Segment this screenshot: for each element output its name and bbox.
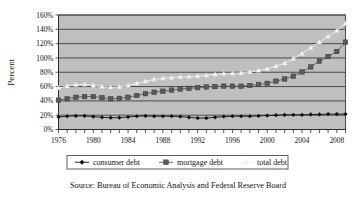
data-point-marker: [56, 98, 61, 103]
y-tick-label: 140%: [36, 25, 53, 34]
x-tick-label: 1984: [121, 136, 136, 145]
y-tick-label: 20%: [40, 111, 54, 120]
x-tick-label: 1976: [51, 136, 66, 145]
data-point-marker: [161, 89, 166, 94]
legend-swatch-marker: [164, 160, 169, 165]
data-point-marker: [91, 94, 96, 99]
data-point-marker: [230, 84, 235, 89]
x-tick-label: 1980: [86, 136, 101, 145]
data-point-marker: [204, 85, 209, 90]
chart-figure: 0%20%40%60%80%100%120%140%160%Percent197…: [0, 0, 357, 197]
x-tick-label: 1992: [190, 136, 205, 145]
x-tick-label: 1988: [155, 136, 170, 145]
x-tick-label: 1996: [225, 136, 240, 145]
legend-label: mortgage debt: [177, 158, 224, 167]
data-point-marker: [152, 90, 157, 95]
data-point-marker: [213, 84, 218, 89]
data-point-marker: [74, 95, 79, 100]
x-axis: 197619801984198819921996200020042008: [51, 130, 345, 146]
data-point-marker: [308, 65, 313, 70]
data-point-marker: [239, 84, 244, 89]
data-point-marker: [265, 81, 270, 86]
data-point-marker: [343, 40, 348, 45]
data-point-marker: [178, 87, 183, 92]
data-point-marker: [195, 85, 200, 90]
y-tick-label: 100%: [36, 54, 53, 63]
y-axis-title: Percent: [6, 58, 16, 85]
data-point-marker: [291, 74, 296, 79]
data-point-marker: [300, 70, 305, 75]
x-tick-label: 2000: [260, 136, 275, 145]
data-point-marker: [335, 49, 340, 54]
legend-label: total debt: [257, 158, 288, 167]
data-point-marker: [108, 96, 113, 101]
data-point-marker: [274, 79, 279, 84]
data-point-marker: [248, 83, 253, 88]
y-tick-label: 120%: [36, 39, 53, 48]
data-point-marker: [143, 91, 148, 96]
x-tick-label: 2008: [329, 136, 344, 145]
y-tick-label: 0%: [44, 125, 54, 134]
data-point-marker: [187, 86, 192, 91]
data-point-marker: [65, 96, 70, 101]
data-point-marker: [256, 82, 261, 87]
data-point-marker: [100, 95, 105, 100]
data-point-marker: [117, 96, 122, 101]
data-point-marker: [282, 77, 287, 82]
data-point-marker: [82, 94, 87, 99]
data-point-marker: [326, 54, 331, 59]
data-point-marker: [126, 95, 131, 100]
data-point-marker: [317, 59, 322, 64]
legend-label: consumer debt: [93, 158, 141, 167]
x-tick-label: 2004: [295, 136, 310, 145]
debt-to-income-line-chart: 0%20%40%60%80%100%120%140%160%Percent197…: [0, 0, 357, 197]
y-tick-label: 40%: [40, 96, 54, 105]
data-point-marker: [169, 88, 174, 93]
y-tick-label: 160%: [36, 11, 53, 20]
y-axis: 0%20%40%60%80%100%120%140%160%: [36, 11, 58, 135]
data-point-marker: [134, 93, 139, 98]
y-tick-label: 60%: [40, 82, 54, 91]
y-tick-label: 80%: [40, 68, 54, 77]
data-point-marker: [221, 84, 226, 89]
source-note: Source: Bureau of Economic Analysis and …: [70, 181, 286, 190]
